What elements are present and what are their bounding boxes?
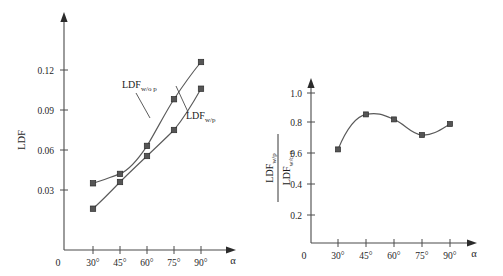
ratio-numerator: LDFw/p <box>264 153 278 183</box>
curve-label-ldf-wo-p-main: LDF <box>122 79 141 90</box>
x-tick-label-1: 45° <box>113 258 127 268</box>
x-axis-arrowhead <box>226 246 236 253</box>
y-tick-label-ratio-3: 0.8 <box>290 118 302 128</box>
x-tick-label-ratio-4: 90° <box>443 251 457 261</box>
origin-label: 0 <box>56 257 61 268</box>
ratio-numerator-main: LDF <box>264 163 275 182</box>
series-curve-ldf-wo-p <box>93 62 201 183</box>
y-axis-ratio <box>307 78 314 243</box>
x-tick-label-ratio-1: 45° <box>359 251 373 261</box>
y-axis-label-ratio-fraction: LDFw/p LDFw/o p <box>264 134 295 202</box>
curve-label-ldf-w-p-main: LDF <box>186 110 205 121</box>
two-panel-figure: 0.03 0.06 0.09 0.12 30° 45° 60° 75° 90° … <box>0 0 503 276</box>
y-tick-label-1: 0.06 <box>37 146 54 156</box>
x-tick-label-ratio-2: 60° <box>387 251 401 261</box>
x-axis-arrowhead-ratio <box>467 239 477 246</box>
x-tick-label-2: 60° <box>140 258 154 268</box>
chart-panel-ratio: 0.2 0.4 0.6 0.8 1.0 30° 45° 60° 75° 90° … <box>252 0 503 276</box>
series-markers-ldf-wo-p <box>90 59 203 186</box>
chart-panel-ldf: 0.03 0.06 0.09 0.12 30° 45° 60° 75° 90° … <box>0 0 252 276</box>
ratio-denominator-main: LDF <box>281 166 292 185</box>
x-axis-label: α <box>230 255 236 266</box>
ldf-chart-svg: 0.03 0.06 0.09 0.12 30° 45° 60° 75° 90° … <box>0 0 252 276</box>
x-tick-label-ratio-0: 30° <box>331 251 345 261</box>
ratio-denominator-sub: w/o p <box>287 150 295 166</box>
y-tick-label-0: 0.03 <box>37 186 54 196</box>
x-axis-label-ratio: α <box>471 248 477 259</box>
y-axis-label: LDF <box>16 130 27 150</box>
x-tick-label-ratio-3: 75° <box>415 251 429 261</box>
leader-line-ldf-w-p <box>176 86 188 112</box>
origin-label-ratio: 0 <box>302 250 307 261</box>
y-tick-label-3: 0.12 <box>37 66 54 76</box>
curve-label-ldf-wo-p: LDFw/o p <box>122 79 157 93</box>
y-tick-label-2: 0.09 <box>37 106 54 116</box>
y-axis-arrowhead-ratio <box>307 78 314 88</box>
leader-line-ldf-wo-p <box>136 93 150 118</box>
curve-label-ldf-wo-p-sub: w/o p <box>141 85 157 93</box>
x-axis <box>64 246 236 253</box>
curve-label-ldf-w-p: LDFw/p <box>186 110 216 124</box>
y-axis-arrowhead <box>60 12 67 22</box>
curve-label-ldf-w-p-sub: w/p <box>205 116 216 124</box>
series-markers-ratio <box>336 112 453 152</box>
y-tick-label-ratio-0: 0.2 <box>290 211 302 221</box>
ratio-numerator-sub: w/p <box>270 153 278 164</box>
ratio-chart-svg: 0.2 0.4 0.6 0.8 1.0 30° 45° 60° 75° 90° … <box>252 0 503 276</box>
y-axis <box>60 12 67 250</box>
y-tick-label-ratio-4: 1.0 <box>290 89 302 99</box>
x-tick-label-4: 90° <box>194 258 208 268</box>
x-tick-label-0: 30° <box>86 258 100 268</box>
x-tick-label-3: 75° <box>167 258 181 268</box>
